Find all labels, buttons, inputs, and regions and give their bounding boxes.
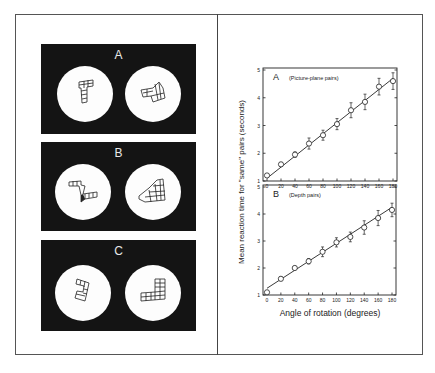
data-point <box>278 162 283 167</box>
data-point <box>320 133 325 138</box>
data-point <box>264 290 269 295</box>
chart-subtitle: (Picture-plane pairs) <box>289 75 339 81</box>
data-point <box>264 173 269 178</box>
data-point <box>390 79 395 84</box>
x-axis-label: Angle of rotation (degrees) <box>280 308 381 318</box>
x-tick-label: 60 <box>306 297 312 303</box>
data-point <box>334 240 339 245</box>
y-tick-label: 5 <box>257 184 260 190</box>
data-point <box>389 207 394 212</box>
x-tick-label: 120 <box>347 183 356 189</box>
y-axis-label: Mean reaction time for "same" pairs (sec… <box>237 100 246 264</box>
x-tick-label: 140 <box>361 183 370 189</box>
data-point <box>376 84 381 89</box>
fit-line <box>267 207 392 288</box>
fit-line <box>267 78 393 178</box>
data-point <box>278 276 283 281</box>
data-point <box>362 225 367 230</box>
data-point <box>348 108 353 113</box>
chart-panel-label: B <box>273 189 279 199</box>
chart-subtitle: (Depth pairs) <box>289 192 321 198</box>
x-tick-label: 140 <box>360 297 369 303</box>
x-tick-label: 160 <box>374 297 383 303</box>
x-tick-label: 0 <box>266 297 269 303</box>
chart-depth: 12345020406080100120140160180B(Depth pai… <box>257 184 396 303</box>
data-point <box>292 265 297 270</box>
x-tick-label: 80 <box>320 297 326 303</box>
chart-panel-label: A <box>273 72 279 82</box>
data-point <box>362 99 367 104</box>
y-tick-label: 3 <box>257 238 260 244</box>
x-tick-label: 180 <box>388 297 397 303</box>
x-tick-label: 0 <box>266 183 269 189</box>
data-point <box>376 215 381 220</box>
x-tick-label: 20 <box>278 297 284 303</box>
x-tick-label: 80 <box>320 183 326 189</box>
y-tick-label: 1 <box>257 292 260 298</box>
x-tick-label: 40 <box>292 183 298 189</box>
data-point <box>348 234 353 239</box>
x-tick-label: 20 <box>278 183 284 189</box>
data-point <box>334 122 339 127</box>
data-point <box>292 152 297 157</box>
reaction-time-charts: Mean reaction time for "same" pairs (sec… <box>0 0 435 373</box>
y-tick-label: 4 <box>257 95 260 101</box>
y-tick-label: 3 <box>257 123 260 129</box>
x-tick-label: 60 <box>306 183 312 189</box>
x-tick-label: 100 <box>333 183 342 189</box>
data-point <box>320 249 325 254</box>
x-tick-label: 40 <box>292 297 298 303</box>
y-tick-label: 2 <box>257 265 260 271</box>
data-point <box>306 141 311 146</box>
x-tick-label: 120 <box>346 297 355 303</box>
y-tick-label: 4 <box>257 211 260 217</box>
y-tick-label: 5 <box>257 67 260 73</box>
chart-picture-plane: 12345020406080100120140160180A(Picture-p… <box>257 67 397 189</box>
y-tick-label: 2 <box>257 150 260 156</box>
data-point <box>306 259 311 264</box>
x-tick-label: 160 <box>375 183 384 189</box>
x-tick-label: 100 <box>332 297 341 303</box>
